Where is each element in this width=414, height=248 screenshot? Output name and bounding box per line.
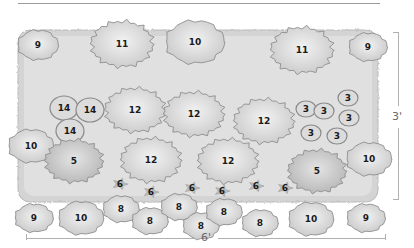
plant-label: 14 (84, 106, 97, 115)
plant-label: 10 (363, 155, 376, 164)
height-dimension-line-bottom (398, 128, 399, 200)
plant-label: 12 (258, 117, 271, 126)
garden-bed (0, 0, 414, 248)
plant-label: 3 (346, 114, 352, 123)
plant-label: 9 (31, 214, 37, 223)
plant-label: 8 (198, 222, 204, 231)
width-dimension-start-tick (26, 234, 27, 240)
plant-label: 6 (253, 182, 259, 191)
plant-label: 3 (303, 105, 309, 114)
plant-label: 6 (117, 180, 123, 189)
plant-label: 6 (282, 184, 288, 193)
width-dimension-end-tick (385, 234, 386, 240)
plant-label: 8 (147, 217, 153, 226)
plant-label: 12 (145, 156, 158, 165)
plant-label: 9 (35, 41, 41, 50)
plant-label: 12 (188, 110, 201, 119)
plant-label: 14 (58, 104, 71, 113)
plant-label: 3 (308, 129, 314, 138)
width-dimension-line-right (218, 238, 386, 239)
plant-label: 14 (64, 127, 77, 136)
height-dimension: 3' (390, 32, 410, 200)
plant-label: 8 (257, 219, 263, 228)
plant-label: 3 (334, 132, 340, 141)
plant-label: 10 (25, 142, 38, 151)
plant-label: 6 (148, 188, 154, 197)
plant-label: 12 (222, 157, 235, 166)
plant-label: 3 (345, 94, 351, 103)
height-dimension-line-top (398, 32, 399, 106)
plant-label: 12 (129, 106, 142, 115)
plant-label: 6 (219, 187, 225, 196)
plant-label: 10 (305, 215, 318, 224)
plant-label: 5 (314, 167, 320, 176)
plant-label: 8 (221, 208, 227, 217)
plant-label: 10 (189, 38, 202, 47)
plant-label: 6 (189, 184, 195, 193)
plant-label: 10 (75, 214, 88, 223)
width-dimension-line-left (26, 238, 194, 239)
width-dimension: 6' (26, 234, 386, 244)
plant-label: 11 (296, 46, 309, 55)
plant-label: 5 (71, 157, 77, 166)
height-dimension-label: 3' (392, 110, 402, 123)
plant-label: 9 (363, 214, 369, 223)
plant-label: 9 (365, 43, 371, 52)
plant-label: 3 (321, 107, 327, 116)
height-dimension-end-tick (393, 199, 399, 200)
plant-label: 11 (116, 40, 129, 49)
plant-label: 8 (176, 203, 182, 212)
plant-label: 8 (118, 205, 124, 214)
width-dimension-label: 6' (201, 231, 211, 244)
